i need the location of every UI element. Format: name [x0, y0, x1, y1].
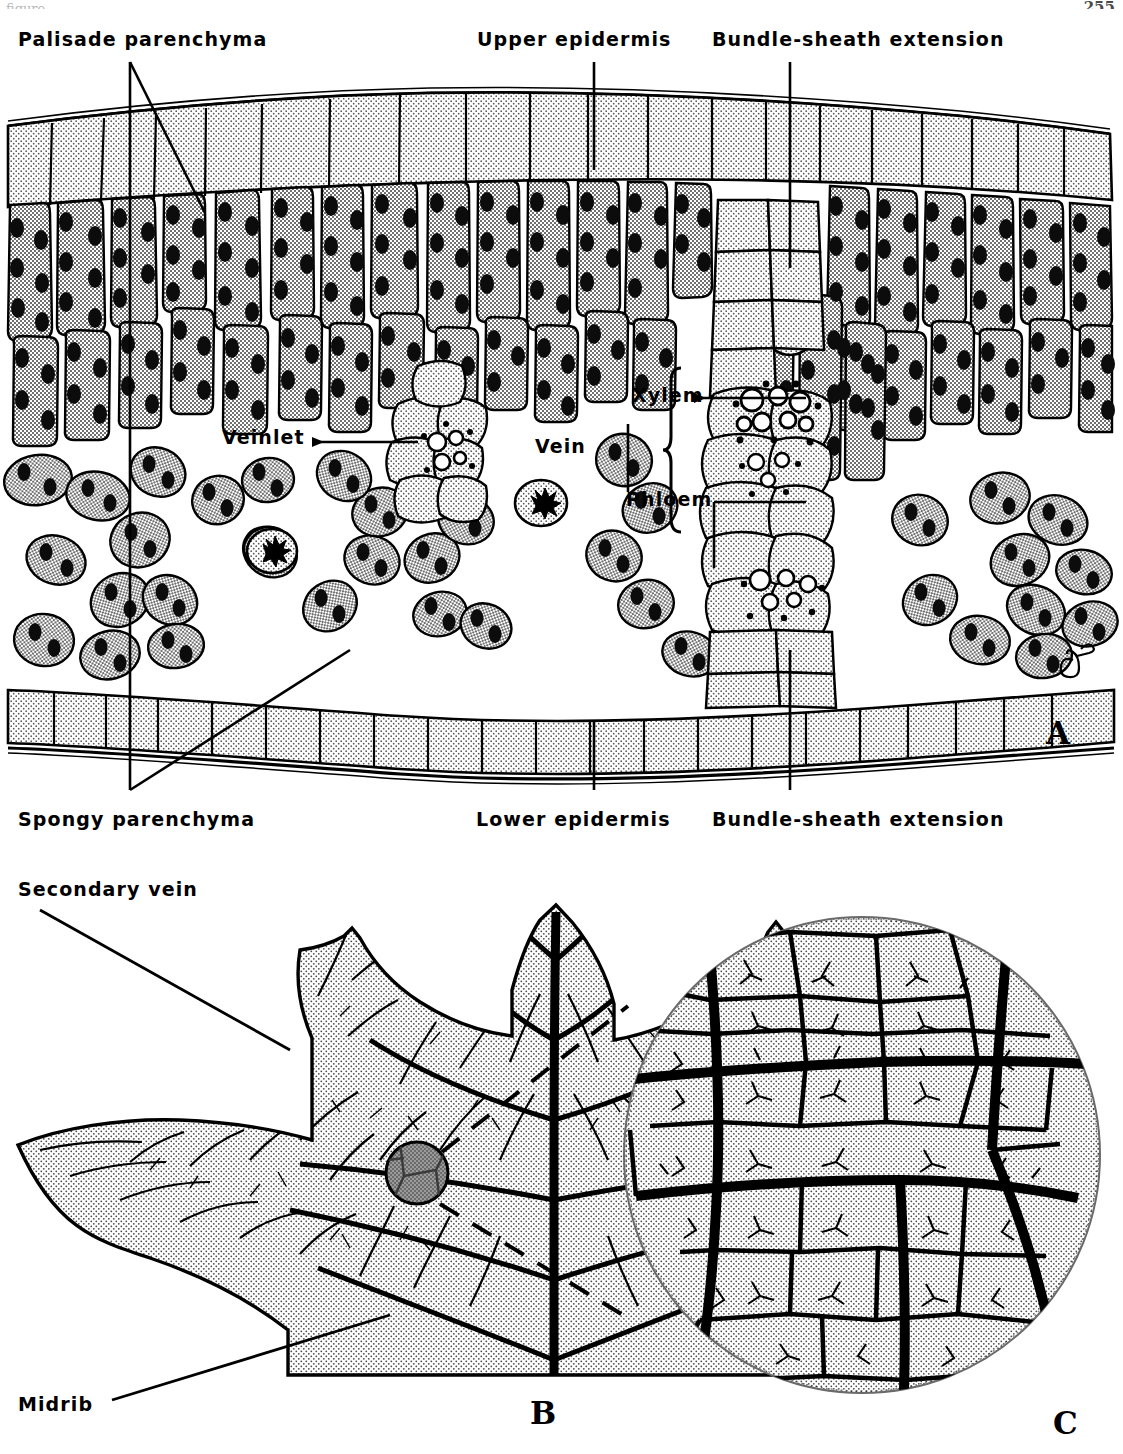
label-vein: Vein	[535, 437, 586, 456]
leaf-structure-figure: figure 255	[0, 0, 1123, 1454]
label-bundle-sheath-extension-top: Bundle-sheath extension	[712, 30, 1005, 49]
label-bundle-sheath-extension-bottom: Bundle-sheath extension	[712, 810, 1005, 829]
label-palisade-parenchyma: Palisade parenchyma	[18, 30, 267, 49]
panel-a-cross-section	[1, 62, 1123, 790]
label-upper-epidermis: Upper epidermis	[477, 30, 671, 49]
label-veinlet: Veinlet	[222, 428, 305, 447]
label-lower-epidermis: Lower epidermis	[476, 810, 671, 829]
vein-large-bundle	[700, 200, 836, 708]
label-xylem: Xylem	[632, 386, 704, 405]
figure-artwork	[0, 0, 1123, 1454]
magnifier-spot	[386, 1142, 448, 1204]
spongy-parenchyma-cells	[1, 428, 1123, 686]
label-phloem: Phloem	[626, 490, 712, 509]
panel-letter-c: C	[1053, 1408, 1078, 1439]
bundle-sheath-extension-lower	[706, 630, 836, 708]
label-midrib: Midrib	[18, 1395, 93, 1414]
panel-letter-a: A	[1046, 718, 1070, 749]
panel-letter-b: B	[530, 1398, 556, 1429]
midrib-vein	[554, 912, 556, 1410]
leader-secondary-vein	[40, 910, 290, 1050]
lower-epidermis-cells	[8, 690, 1114, 784]
label-secondary-vein: Secondary vein	[18, 880, 198, 899]
label-spongy-parenchyma: Spongy parenchyma	[18, 810, 255, 829]
